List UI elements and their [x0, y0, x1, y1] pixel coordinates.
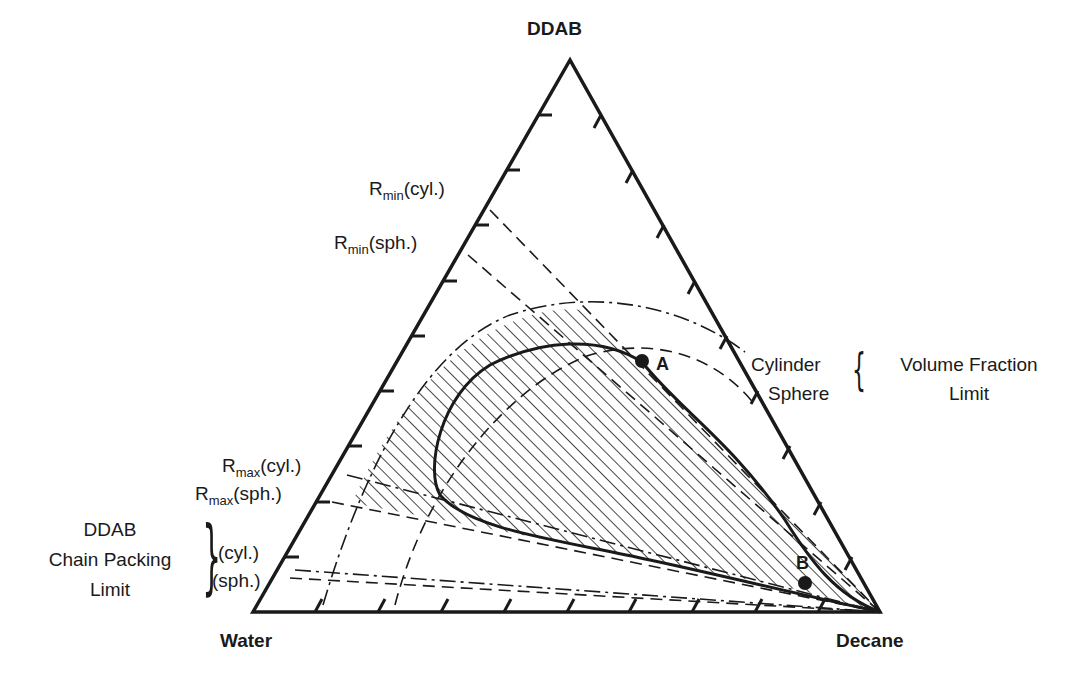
- chain-packing-label-line1: DDAB: [25, 519, 195, 541]
- bottom-edge-ticks: [315, 599, 825, 612]
- rmax-sph-label: Rmax(sph.): [195, 483, 282, 505]
- chain-packing-label-line3: Limit: [25, 579, 195, 601]
- rmax-cyl-label: Rmax(cyl.): [222, 455, 301, 477]
- vertex-label-decane: Decane: [836, 630, 904, 652]
- chain-packing-sph-label: (sph.): [212, 570, 261, 592]
- sphere-label: Sphere: [768, 383, 829, 405]
- rmin-sph-label: Rmin(sph.): [334, 232, 417, 254]
- chain-packing-cyl-label: (cyl.): [218, 542, 259, 564]
- rmin-cyl-label: Rmin(cyl.): [369, 178, 445, 200]
- cylinder-label: Cylinder: [751, 354, 821, 376]
- vertex-label-ddab: DDAB: [527, 18, 582, 40]
- point-a-label: A: [656, 354, 669, 375]
- volume-fraction-label-line2: Limit: [864, 383, 1074, 405]
- point-b-label: B: [796, 553, 809, 574]
- volume-fraction-label-line1: Volume Fraction: [864, 354, 1074, 376]
- chain-packing-label-line2: Chain Packing: [25, 549, 195, 571]
- point-a-marker: [635, 354, 649, 368]
- vertex-label-water: Water: [220, 630, 272, 652]
- point-b-marker: [798, 576, 812, 590]
